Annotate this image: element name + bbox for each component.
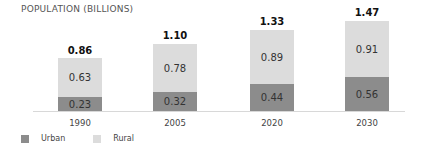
bar-segment-urban: 0.32: [153, 92, 197, 111]
bar-segment-rural: 0.63: [58, 58, 102, 97]
bar-total-label: 1.47: [337, 7, 397, 18]
x-tick-label: 1990: [50, 118, 110, 128]
bar-segment-urban: 0.23: [58, 97, 102, 111]
bar-segment-rural: 0.89: [250, 30, 294, 84]
bar-segment-urban: 0.56: [345, 77, 389, 111]
bar-total-label: 1.10: [145, 30, 205, 41]
bar-segment-rural: 0.78: [153, 44, 197, 92]
legend-swatch-rural: [93, 135, 101, 143]
bar-total-label: 1.33: [242, 16, 302, 27]
chart-title: POPULATION (BILLIONS): [21, 4, 133, 14]
x-tick-label: 2005: [145, 118, 205, 128]
legend-label-urban: Urban: [41, 134, 65, 143]
bar-2030: 0.91 0.56: [345, 21, 389, 111]
bar-2020: 0.89 0.44: [250, 30, 294, 111]
bar-segment-rural: 0.91: [345, 21, 389, 77]
bar-segment-urban: 0.44: [250, 84, 294, 111]
x-tick-label: 2030: [337, 118, 397, 128]
bar-2005: 0.78 0.32: [153, 44, 197, 111]
x-axis-line: [33, 111, 405, 112]
x-tick-label: 2020: [242, 118, 302, 128]
legend-swatch-urban: [21, 135, 29, 143]
legend-label-rural: Rural: [113, 134, 134, 143]
legend: Urban Rural: [21, 134, 162, 143]
bar-total-label: 0.86: [50, 45, 110, 56]
bar-1990: 0.63 0.23: [58, 58, 102, 111]
